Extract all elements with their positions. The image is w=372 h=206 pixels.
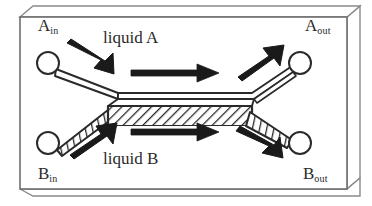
port-a-out[interactable] bbox=[289, 52, 311, 74]
port-label-b-in-base: B bbox=[38, 164, 49, 183]
port-label-b-out: Bout bbox=[303, 165, 328, 182]
port-label-b-in-sub: in bbox=[49, 173, 57, 184]
port-a-in[interactable] bbox=[37, 52, 59, 74]
contact-channel-b bbox=[108, 106, 252, 126]
liquid-a-label: liquid A bbox=[103, 29, 158, 46]
port-label-a-out-sub: out bbox=[317, 25, 330, 36]
port-label-a-in: Ain bbox=[38, 17, 58, 34]
port-label-a-out-base: A bbox=[305, 16, 317, 35]
port-label-b-out-sub: out bbox=[314, 173, 327, 184]
port-b-in[interactable] bbox=[37, 132, 59, 154]
port-label-b-out-base: B bbox=[303, 164, 314, 183]
housing-right-face bbox=[347, 6, 360, 189]
liquid-b-label: liquid B bbox=[103, 150, 158, 167]
port-b-out[interactable] bbox=[289, 132, 311, 154]
port-label-b-in: Bin bbox=[38, 165, 58, 182]
port-label-a-in-base: A bbox=[38, 16, 50, 35]
port-label-a-out: Aout bbox=[305, 17, 331, 34]
port-label-a-in-sub: in bbox=[50, 25, 58, 36]
microfluidic-device-figure: Ain Aout Bin Bout liquid A liquid B bbox=[0, 0, 372, 206]
